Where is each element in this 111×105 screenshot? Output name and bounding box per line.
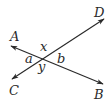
point-label-d: D — [93, 5, 105, 20]
angle-label-x: x — [40, 39, 48, 54]
angle-label-b: b — [57, 51, 65, 66]
point-label-b: B — [93, 87, 104, 102]
angle-label-y: y — [37, 59, 46, 74]
point-label-a: A — [9, 29, 19, 44]
point-label-c: C — [9, 83, 19, 98]
angle-label-a: a — [25, 51, 33, 66]
intersecting-lines-diagram: A B C D x a y b — [0, 0, 111, 105]
line-cd — [12, 19, 104, 79]
